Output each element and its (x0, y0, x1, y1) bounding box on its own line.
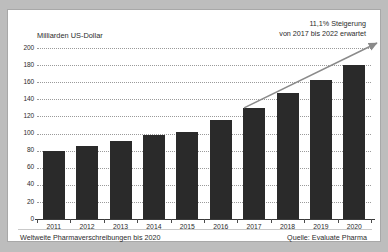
y-tick-label: 80 (12, 147, 34, 154)
bar-2016[interactable] (210, 120, 232, 219)
y-tick-label: 100 (12, 130, 34, 137)
x-tick (104, 219, 105, 223)
gridline (37, 65, 371, 66)
y-tick-label: 60 (12, 164, 34, 171)
x-tick (70, 219, 71, 223)
bar-2017[interactable] (243, 108, 265, 219)
x-tick (304, 219, 305, 223)
growth-annotation-line2: von 2017 bis 2022 erwartet (279, 29, 366, 39)
x-tick (137, 219, 138, 223)
x-tick (371, 219, 372, 223)
x-tick (271, 219, 272, 223)
bar-2012[interactable] (76, 146, 98, 219)
y-tick-label: 0 (12, 216, 34, 223)
x-tick-label-2020: 2020 (334, 224, 374, 231)
bar-2018[interactable] (277, 93, 299, 219)
y-tick-label: 120 (12, 113, 34, 120)
y-tick-label: 180 (12, 62, 34, 69)
y-tick-label: 200 (12, 45, 34, 52)
bar-2011[interactable] (43, 151, 65, 219)
y-tick-label: 140 (12, 96, 34, 103)
x-tick (237, 219, 238, 223)
gridline (37, 48, 371, 49)
plot-area (37, 48, 371, 219)
y-axis-ticks: 020406080100120140160180200 (8, 48, 34, 219)
bar-2019[interactable] (310, 80, 332, 219)
chart-panel: Milliarden US-Dollar 11,1% Steigerung vo… (7, 9, 381, 242)
x-axis-line (35, 219, 375, 220)
bar-2020[interactable] (343, 65, 365, 219)
y-tick-label: 160 (12, 79, 34, 86)
chart-caption: Weltweite Pharmaverschreibungen bis 2020 (20, 233, 161, 242)
x-tick (171, 219, 172, 223)
y-tick-label: 20 (12, 199, 34, 206)
y-tick-label: 40 (12, 181, 34, 188)
x-tick (204, 219, 205, 223)
bar-2013[interactable] (110, 141, 132, 219)
growth-annotation: 11,1% Steigerung von 2017 bis 2022 erwar… (279, 19, 366, 38)
chart-figure: Milliarden US-Dollar 11,1% Steigerung vo… (0, 0, 388, 252)
x-tick (338, 219, 339, 223)
chart-source: Quelle: Evaluate Pharma (287, 233, 367, 242)
bar-2015[interactable] (176, 132, 198, 219)
y-axis-title: Milliarden US-Dollar (37, 31, 103, 40)
x-tick (37, 219, 38, 223)
bar-2014[interactable] (143, 135, 165, 219)
growth-annotation-line1: 11,1% Steigerung (279, 19, 366, 29)
